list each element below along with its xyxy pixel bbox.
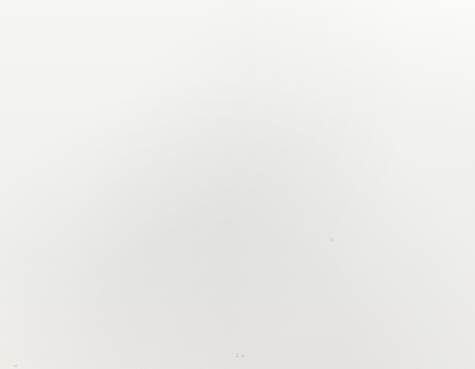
figure-panel-grid <box>0 0 475 369</box>
